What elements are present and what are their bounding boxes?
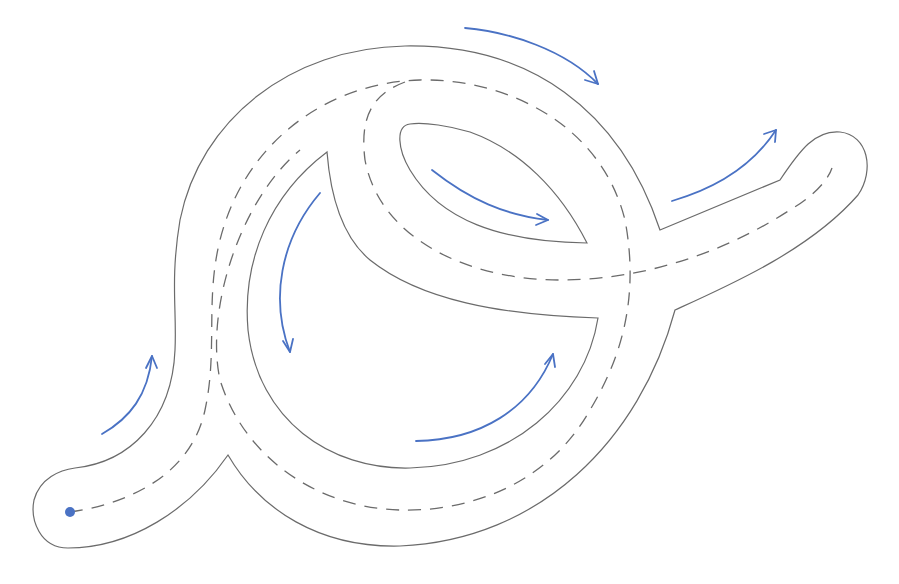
track-inner-leaf-edge: [400, 123, 587, 243]
track-inner-loop-edge: [247, 152, 598, 468]
arrow-icon: [416, 354, 553, 441]
direction-arrow-loop-bottom: [416, 354, 555, 441]
direction-arrow-lower-left: [102, 356, 157, 434]
direction-arrow-top: [465, 28, 598, 84]
direction-arrow-loop-left: [280, 193, 320, 352]
track-outer-edge: [33, 46, 867, 548]
direction-arrow-right-exit: [672, 130, 776, 201]
start-point-dot: [65, 507, 75, 517]
direction-arrow-inner-leaf: [432, 170, 548, 225]
track-centerline-branch: [364, 82, 832, 280]
track-diagram: [0, 0, 899, 584]
arrow-icon: [280, 193, 320, 352]
arrow-icon: [672, 130, 776, 201]
arrow-icon: [432, 170, 548, 220]
arrow-icon: [102, 356, 152, 434]
arrow-icon: [465, 28, 598, 84]
track-centerline: [70, 80, 630, 512]
